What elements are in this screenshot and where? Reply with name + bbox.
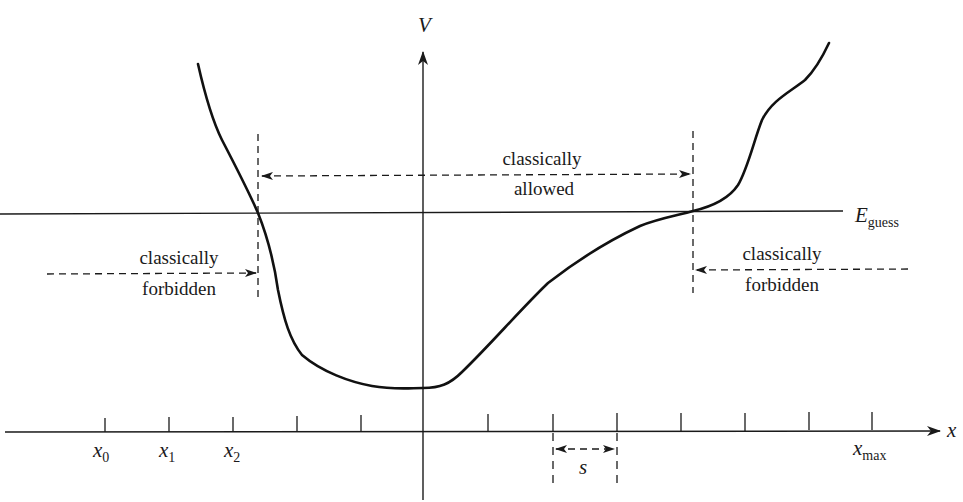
- energy-guess-line: Eguess: [0, 203, 899, 230]
- region-forbidden-right: classically forbidden: [696, 243, 908, 295]
- forbidden-right-line2: forbidden: [745, 274, 819, 295]
- forbidden-right-line1: classically: [742, 243, 822, 264]
- allowed-label-line1: classically: [502, 148, 582, 169]
- forbidden-left-arrow: [47, 273, 256, 274]
- tick-label-x1: x1: [158, 438, 175, 465]
- region-forbidden-left: classically forbidden: [47, 247, 256, 299]
- x-axis-label: x: [946, 418, 957, 442]
- tick-label-x0: x0: [92, 438, 109, 465]
- allowed-label-line2: allowed: [514, 178, 575, 199]
- region-allowed: classically allowed: [262, 148, 690, 199]
- potential-curve: [198, 43, 829, 389]
- potential-well-diagram: x V x0 x1 x2 xmax s Eguess: [0, 0, 963, 502]
- tick-label-x2: x2: [223, 438, 240, 465]
- step-label: s: [579, 455, 587, 479]
- energy-label: Eguess: [854, 203, 899, 230]
- allowed-double-arrow: [262, 174, 690, 176]
- energy-line: [0, 211, 843, 214]
- x-axis-ticks: [105, 412, 872, 432]
- step-size-bracket: s: [553, 433, 617, 488]
- forbidden-left-line2: forbidden: [142, 278, 216, 299]
- x-axis-line: [5, 431, 940, 432]
- x-axis: x: [5, 418, 957, 442]
- forbidden-left-line1: classically: [139, 247, 219, 268]
- v-axis: V: [418, 13, 433, 500]
- forbidden-right-arrow: [696, 269, 908, 270]
- x-tick-labels: x0 x1 x2 xmax: [92, 436, 886, 465]
- v-axis-label: V: [418, 13, 433, 37]
- tick-label-xmax: xmax: [852, 436, 886, 463]
